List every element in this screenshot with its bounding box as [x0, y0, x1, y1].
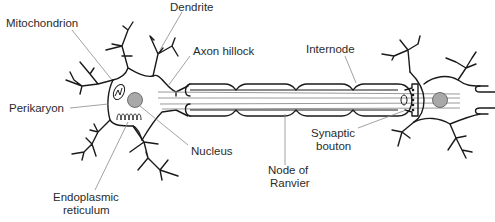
label-mitochondrion: Mitochondrion [6, 17, 78, 29]
leader-endoplasmic-reticulum [95, 122, 128, 190]
leader-dendrite [160, 12, 182, 50]
label-node-of-ranvier-line1: Node of [268, 164, 309, 176]
myelin-sheath [186, 84, 413, 116]
left-dendrites [66, 22, 178, 180]
mitochondrion [111, 83, 127, 102]
right-neuron [382, 36, 495, 158]
leader-mitochondrion [72, 30, 112, 80]
label-nucleus: Nucleus [191, 145, 233, 157]
neuron-illustration: Dendrite Mitochondrion Axon hillock Inte… [0, 0, 495, 222]
label-internode: Internode [306, 43, 355, 55]
label-synaptic-bouton-line1: Synaptic [311, 127, 355, 139]
endoplasmic-reticulum [117, 114, 141, 120]
label-node-of-ranvier-line2: Ranvier [270, 177, 310, 189]
right-nucleus [433, 93, 448, 108]
label-axon-hillock: Axon hillock [193, 45, 255, 57]
label-perikaryon: Perikaryon [9, 102, 64, 114]
leader-internode [345, 56, 356, 83]
leader-axon-hillock [168, 56, 190, 86]
neuron-diagram: Dendrite Mitochondrion Axon hillock Inte… [0, 0, 495, 222]
label-endoplasmic-reticulum-line1: Endoplasmic [53, 191, 119, 203]
leader-perikaryon [70, 104, 108, 108]
leader-lines [70, 12, 406, 190]
label-dendrite: Dendrite [170, 1, 213, 13]
leader-synaptic-bouton [358, 110, 406, 128]
label-synaptic-bouton-line2: bouton [316, 140, 351, 152]
nucleus [128, 93, 143, 108]
label-endoplasmic-reticulum-line2: reticulum [63, 204, 110, 216]
